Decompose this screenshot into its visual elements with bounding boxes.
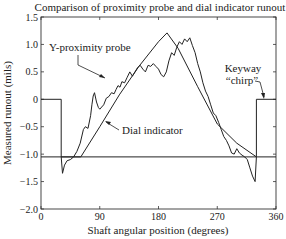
y-tick-label: −1.5 [20,176,38,187]
y-tick-label: 1.0 [26,39,39,50]
runout-comparison-chart: Comparison of proximity probe and dial i… [0,0,286,239]
annotation-keyway: Keyway [225,62,262,74]
arrowhead-icon [261,93,265,99]
chart-title: Comparison of proximity probe and dial i… [35,1,286,13]
y-tick-label: 0 [33,94,38,105]
y-tick-label: −1.0 [20,149,38,160]
arrowhead-icon [99,74,105,78]
y-tick-label: −0.5 [20,121,38,132]
y-tick-label: 1.5 [26,12,39,23]
plot-series [41,33,276,182]
y-tick-label: 0.5 [26,66,39,77]
y-tick-label: −2.0 [20,204,38,215]
series-y-proximity-probe [61,38,256,182]
y-axis-label: Measured runout (mils) [1,61,14,165]
x-tick-label: 360 [269,211,284,222]
x-tick-label: 90 [95,211,105,222]
annotation-chirp: “chirp” [226,74,258,86]
x-tick-label: 180 [151,211,166,222]
x-tick-label: 270 [210,211,225,222]
x-axis-label: Shaft angular position (degrees) [88,224,229,237]
annotation-y-proximity-probe: Y-proximity probe [49,41,131,53]
x-tick-label: 0 [39,211,44,222]
annotation-dial-indicator: Dial indicator [122,124,183,136]
